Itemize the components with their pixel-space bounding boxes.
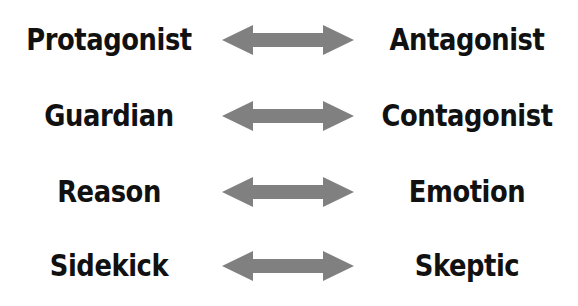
left-label: Protagonist [15, 15, 202, 65]
double-arrow-icon [222, 177, 354, 207]
left-label: Guardian [15, 91, 202, 141]
double-arrow-icon [222, 101, 354, 131]
right-label: Skeptic [377, 241, 558, 291]
left-label: Reason [15, 167, 202, 217]
right-label: Antagonist [377, 15, 558, 65]
pair-row-sidekick-skeptic: Sidekick Skeptic [0, 241, 578, 291]
pair-row-reason-emotion: Reason Emotion [0, 167, 578, 217]
right-label: Contagonist [377, 91, 558, 141]
right-label: Emotion [377, 167, 558, 217]
double-arrow-icon [222, 25, 354, 55]
pair-row-protagonist-antagonist: Protagonist Antagonist [0, 15, 578, 65]
double-arrow-icon [222, 251, 354, 281]
pair-row-guardian-contagonist: Guardian Contagonist [0, 91, 578, 141]
left-label: Sidekick [15, 241, 202, 291]
